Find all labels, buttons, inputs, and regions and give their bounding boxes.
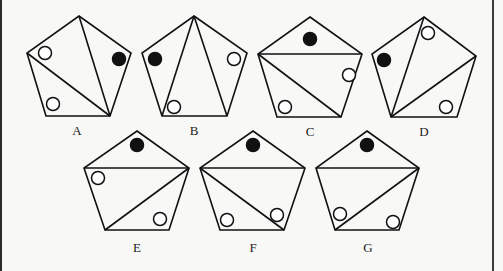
pentagon-outline <box>27 16 131 116</box>
diagonal-line <box>200 168 284 230</box>
filled-circle-icon <box>304 33 317 46</box>
open-circle-icon <box>154 213 167 226</box>
diagonal-line <box>391 17 424 117</box>
pentagon-option-c[interactable] <box>258 17 362 117</box>
diagonal-line <box>258 54 341 117</box>
open-circle-icon <box>228 53 241 66</box>
open-circle-icon <box>343 69 356 82</box>
filled-circle-icon <box>247 139 260 152</box>
pentagon-outline <box>142 16 247 116</box>
open-circle-icon <box>92 172 105 185</box>
diagonal-line <box>105 168 189 230</box>
pentagon-option-b[interactable] <box>142 16 247 116</box>
puzzle-figure: ABCDEFG <box>0 0 503 271</box>
open-circle-icon <box>271 209 284 222</box>
filled-circle-icon <box>378 54 391 67</box>
option-label-c: C <box>306 125 315 138</box>
option-label-f: F <box>249 241 256 254</box>
filled-circle-icon <box>361 139 374 152</box>
pentagon-option-g[interactable] <box>316 131 419 230</box>
diagonal-line <box>335 168 419 230</box>
option-label-g: G <box>363 241 372 254</box>
open-circle-icon <box>387 216 400 229</box>
option-label-b: B <box>190 124 199 137</box>
open-circle-icon <box>422 27 435 40</box>
open-circle-icon <box>440 101 453 114</box>
pentagon-option-e[interactable] <box>84 131 189 230</box>
open-circle-icon <box>168 101 181 114</box>
pentagon-option-f[interactable] <box>200 131 305 230</box>
filled-circle-icon <box>149 53 162 66</box>
diagonal-line <box>194 16 227 116</box>
filled-circle-icon <box>113 53 126 66</box>
open-circle-icon <box>279 101 292 114</box>
diagonal-line <box>79 16 110 116</box>
pentagon-option-a[interactable] <box>27 16 131 116</box>
option-label-e: E <box>133 241 141 254</box>
diagonal-line <box>27 53 110 116</box>
open-circle-icon <box>334 208 347 221</box>
option-label-d: D <box>419 125 428 138</box>
open-circle-icon <box>221 214 234 227</box>
open-circle-icon <box>39 47 52 60</box>
pentagon-option-d[interactable] <box>372 17 476 117</box>
open-circle-icon <box>47 98 60 111</box>
diagonal-line <box>391 56 476 117</box>
filled-circle-icon <box>131 139 144 152</box>
option-label-a: A <box>72 124 81 137</box>
